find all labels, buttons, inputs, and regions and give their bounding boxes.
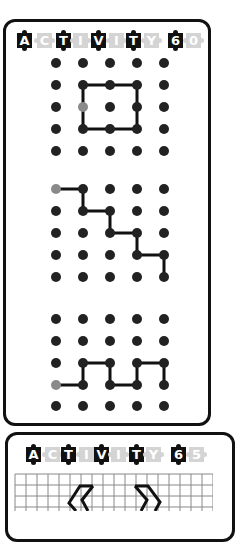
grid-paper bbox=[0, 0, 213, 511]
